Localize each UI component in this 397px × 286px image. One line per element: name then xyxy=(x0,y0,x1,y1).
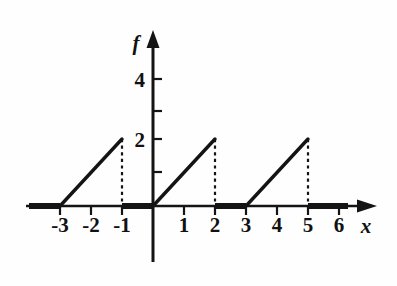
y-tick-label-2: 2 xyxy=(135,128,146,152)
x-tick-label-4: 4 xyxy=(272,213,283,237)
y-tick-label-4: 4 xyxy=(135,68,146,92)
x-tick-label-6: 6 xyxy=(334,213,345,237)
x-tick-label-minus3: -3 xyxy=(51,213,69,237)
figure-container: -3 -2 -1 1 2 3 4 5 6 x 2 4 f xyxy=(0,0,397,286)
x-tick-label-2: 2 xyxy=(210,213,221,237)
x-axis-title: x xyxy=(360,214,372,238)
chart-background xyxy=(0,0,397,286)
sawtooth-function-chart: -3 -2 -1 1 2 3 4 5 6 x 2 4 f xyxy=(0,0,397,286)
x-tick-label-minus2: -2 xyxy=(82,213,100,237)
x-tick-label-5: 5 xyxy=(303,213,314,237)
x-tick-label-1: 1 xyxy=(179,213,190,237)
x-tick-label-minus1: -1 xyxy=(113,213,131,237)
x-tick-label-3: 3 xyxy=(241,213,252,237)
